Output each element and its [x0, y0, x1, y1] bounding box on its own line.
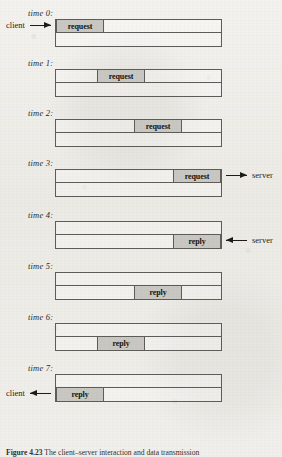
endpoint-label-3: server [252, 171, 273, 180]
reply-channel-row-5: reply [56, 286, 221, 299]
reply-channel-row-2 [56, 133, 221, 146]
channel-box-5: reply [55, 272, 222, 300]
channel-box-7: reply [55, 374, 222, 402]
figure-caption: Figure 4.23 The client–server interactio… [6, 448, 278, 457]
channel-box-2: request [55, 119, 222, 147]
request-channel-row-0: request [56, 20, 221, 33]
message-block-request-3: request [173, 170, 221, 182]
message-block-request-0: request [56, 20, 104, 32]
caption-label: Figure 4.23 [6, 448, 43, 457]
channel-box-1: request [55, 69, 222, 97]
arrow-right-icon [226, 171, 247, 180]
arrow-right-icon [30, 21, 51, 30]
time-label-3: time 3: [28, 158, 53, 168]
message-block-request-2: request [134, 120, 182, 132]
reply-channel-row-4: reply [56, 235, 221, 248]
request-channel-row-2: request [56, 120, 221, 133]
message-block-request-1: request [97, 70, 145, 82]
caption-text: The client–server interaction and data t… [44, 448, 199, 457]
request-channel-row-3: request [56, 170, 221, 183]
message-block-reply-7: reply [56, 388, 104, 401]
time-label-0: time 0: [28, 8, 53, 18]
time-label-4: time 4: [28, 210, 53, 220]
request-channel-row-7 [56, 375, 221, 388]
message-block-reply-5: reply [134, 286, 182, 299]
request-channel-row-1: request [56, 70, 221, 83]
time-label-2: time 2: [28, 108, 53, 118]
endpoint-client-0: client [6, 19, 55, 32]
time-label-5: time 5: [28, 261, 53, 271]
arrow-left-icon [226, 236, 247, 245]
request-channel-row-5 [56, 273, 221, 286]
request-channel-row-6 [56, 324, 221, 337]
channel-box-4: reply [55, 221, 222, 249]
endpoint-label-7: client [6, 389, 25, 398]
endpoint-label-0: client [6, 21, 25, 30]
channel-box-6: reply [55, 323, 222, 351]
time-label-7: time 7: [28, 363, 53, 373]
endpoint-server-3: server [226, 169, 273, 182]
time-label-6: time 6: [28, 312, 53, 322]
channel-box-3: request [55, 169, 222, 197]
reply-channel-row-1 [56, 83, 221, 96]
time-label-1: time 1: [28, 58, 53, 68]
channel-box-0: request [55, 19, 222, 47]
request-channel-row-4 [56, 222, 221, 235]
reply-channel-row-3 [56, 183, 221, 196]
message-block-reply-4: reply [173, 235, 221, 248]
reply-channel-row-7: reply [56, 388, 221, 401]
reply-channel-row-0 [56, 33, 221, 46]
endpoint-client-7: client [6, 387, 55, 400]
arrow-left-icon [30, 389, 51, 398]
endpoint-label-4: server [252, 236, 273, 245]
message-block-reply-6: reply [97, 337, 145, 350]
reply-channel-row-6: reply [56, 337, 221, 350]
endpoint-server-4: server [226, 234, 273, 247]
